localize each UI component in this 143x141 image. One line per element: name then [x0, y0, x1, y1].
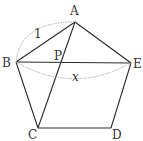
label-c: C — [28, 128, 37, 141]
diagonal-be — [16, 62, 131, 63]
label-side-length: 1 — [34, 27, 42, 41]
edge-ea — [75, 22, 131, 63]
label-e: E — [133, 57, 142, 71]
edge-ab — [16, 22, 75, 62]
label-d: D — [112, 128, 122, 141]
label-p: P — [54, 49, 62, 63]
edge-bc — [16, 62, 38, 128]
edge-de — [111, 63, 131, 128]
diagonal-ac — [38, 22, 75, 128]
label-b: B — [2, 56, 11, 70]
label-diagonal-length: x — [72, 70, 79, 84]
pentagon-diagram: A B E C D P 1 x — [0, 0, 143, 141]
label-a: A — [69, 4, 79, 18]
